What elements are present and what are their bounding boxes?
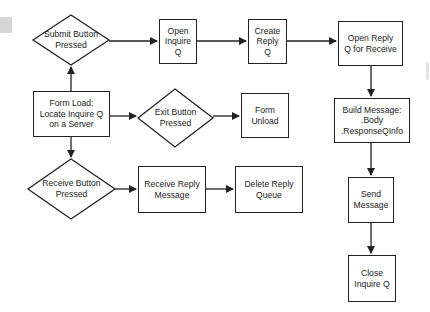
- node-open-inquire-q: Open Inquire Q: [159, 19, 197, 64]
- flowchart: Submit Button Pressed Exit Button Presse…: [0, 0, 430, 312]
- node-form-load: Form Load: Locate Inquire Q on a Server: [33, 91, 110, 137]
- node-send-message: Send Message: [348, 177, 394, 223]
- node-create-reply-q: Create Reply Q: [248, 19, 287, 64]
- node-delete-reply-queue: Delete Reply Queue: [235, 166, 303, 213]
- node-build-message: Build Message: .Body .ResponseQInfo: [334, 98, 410, 143]
- receive-diamond-shape: [28, 159, 115, 219]
- node-open-reply-q-for-receive: Open Reply Q for Receive: [338, 21, 403, 66]
- node-close-inquire-q: Close Inquire Q: [348, 255, 396, 302]
- exit-diamond-shape: [138, 89, 213, 147]
- node-receive-reply-message: Receive Reply Message: [138, 166, 206, 213]
- node-form-unload: Form Unload: [241, 93, 289, 138]
- submit-diamond-shape: [33, 15, 109, 65]
